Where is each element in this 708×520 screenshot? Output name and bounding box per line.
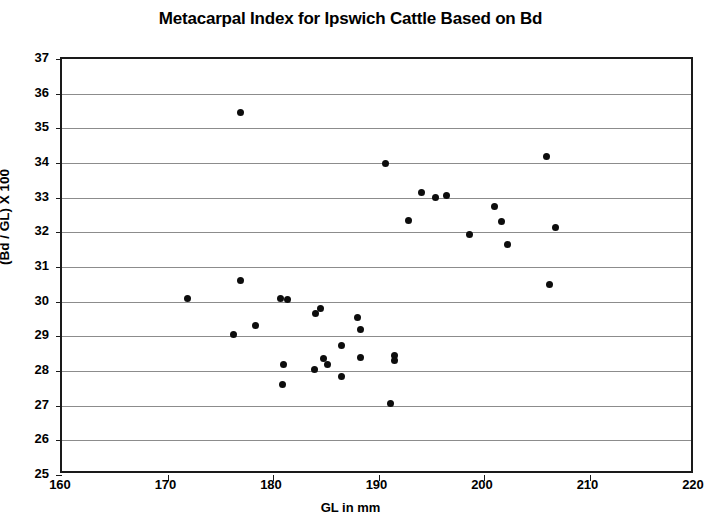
data-point bbox=[354, 314, 361, 321]
data-point bbox=[543, 153, 550, 160]
tick-mark-y-26 bbox=[56, 440, 62, 441]
chart-title: Metacarpal Index for Ipswich Cattle Base… bbox=[0, 9, 701, 29]
data-point bbox=[252, 322, 259, 329]
tick-mark-y-30 bbox=[56, 302, 62, 303]
tick-mark-y-31 bbox=[56, 267, 62, 268]
tick-mark-y-27 bbox=[56, 406, 62, 407]
y-tick-label: 27 bbox=[0, 396, 49, 411]
x-axis-tick-labels: 160170180190200210220 bbox=[60, 477, 693, 497]
data-point bbox=[277, 295, 284, 302]
data-point bbox=[237, 277, 244, 284]
data-point bbox=[357, 326, 364, 333]
y-tick-label: 30 bbox=[0, 292, 49, 307]
y-tick-label: 34 bbox=[0, 154, 49, 169]
tick-mark-y-29 bbox=[56, 336, 62, 337]
data-point bbox=[552, 224, 559, 231]
gridline-y-35 bbox=[62, 128, 691, 129]
y-tick-label: 36 bbox=[0, 84, 49, 99]
data-point bbox=[491, 203, 498, 210]
data-point bbox=[443, 192, 450, 199]
x-tick-label: 190 bbox=[347, 477, 407, 492]
data-point bbox=[338, 373, 345, 380]
data-point bbox=[382, 160, 389, 167]
gridline-y-31 bbox=[62, 267, 691, 268]
tick-mark-y-35 bbox=[56, 128, 62, 129]
y-tick-label: 29 bbox=[0, 327, 49, 342]
gridline-y-33 bbox=[62, 198, 691, 199]
tick-mark-y-36 bbox=[56, 94, 62, 95]
y-tick-label: 26 bbox=[0, 431, 49, 446]
tick-mark-y-37 bbox=[56, 59, 62, 60]
x-tick-label: 160 bbox=[30, 477, 90, 492]
data-point bbox=[237, 109, 244, 116]
gridline-y-34 bbox=[62, 163, 691, 164]
data-point bbox=[338, 342, 345, 349]
data-point bbox=[357, 354, 364, 361]
data-point bbox=[432, 194, 439, 201]
gridline-y-28 bbox=[62, 371, 691, 372]
x-tick-label: 170 bbox=[136, 477, 196, 492]
gridline-y-32 bbox=[62, 232, 691, 233]
data-point bbox=[311, 366, 318, 373]
gridline-y-26 bbox=[62, 440, 691, 441]
x-tick-label: 210 bbox=[558, 477, 618, 492]
data-point bbox=[279, 381, 286, 388]
gridline-y-27 bbox=[62, 406, 691, 407]
y-tick-label: 35 bbox=[0, 119, 49, 134]
data-point bbox=[546, 281, 553, 288]
x-tick-label: 200 bbox=[452, 477, 512, 492]
y-tick-label: 28 bbox=[0, 362, 49, 377]
tick-mark-y-25 bbox=[56, 475, 62, 476]
data-point bbox=[324, 361, 331, 368]
plot-area bbox=[60, 57, 693, 473]
data-point bbox=[317, 305, 324, 312]
gridline-y-29 bbox=[62, 336, 691, 337]
x-tick-label: 220 bbox=[663, 477, 708, 492]
data-point bbox=[498, 218, 505, 225]
data-point bbox=[405, 217, 412, 224]
data-point bbox=[504, 241, 511, 248]
tick-mark-y-33 bbox=[56, 198, 62, 199]
data-point bbox=[184, 295, 191, 302]
tick-mark-y-32 bbox=[56, 232, 62, 233]
data-point bbox=[391, 357, 398, 364]
y-tick-label: 37 bbox=[0, 50, 49, 65]
tick-mark-y-34 bbox=[56, 163, 62, 164]
gridline-y-30 bbox=[62, 302, 691, 303]
data-point bbox=[466, 231, 473, 238]
data-point bbox=[418, 189, 425, 196]
data-point bbox=[280, 361, 287, 368]
tick-mark-y-28 bbox=[56, 371, 62, 372]
x-axis-title: GL in mm bbox=[0, 500, 701, 515]
x-tick-label: 180 bbox=[241, 477, 301, 492]
y-axis-title: (Bd / GL) X 100 bbox=[0, 169, 12, 265]
gridline-y-36 bbox=[62, 94, 691, 95]
